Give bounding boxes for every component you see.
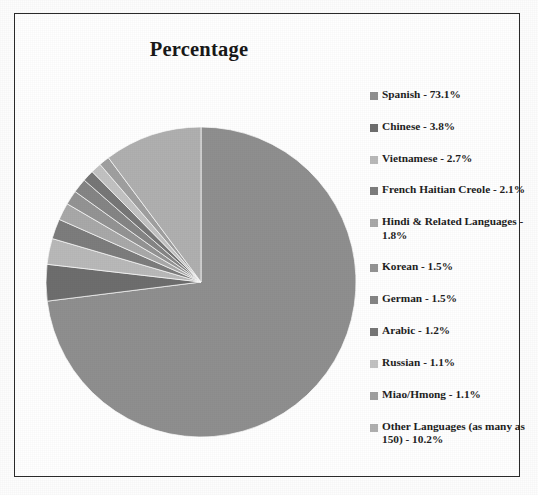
- legend-item: Hindi & Related Languages - 1.8%: [370, 215, 538, 242]
- legend-item: German - 1.5%: [370, 292, 538, 305]
- legend-item: French Haitian Creole - 2.1%: [370, 183, 538, 196]
- legend-item: Spanish - 73.1%: [370, 88, 538, 101]
- pie-chart-svg: [31, 112, 356, 442]
- legend-item-label: Russian - 1.1%: [382, 356, 455, 369]
- legend-item: Korean - 1.5%: [370, 260, 538, 273]
- legend-item: Russian - 1.1%: [370, 356, 538, 369]
- legend-swatch-icon: [370, 360, 378, 368]
- legend-item: Miao/Hmong - 1.1%: [370, 388, 538, 401]
- legend-swatch-icon: [370, 156, 378, 164]
- pie-slice-group: [46, 127, 356, 437]
- legend-item: Chinese - 3.8%: [370, 120, 538, 133]
- legend-item-label: Korean - 1.5%: [382, 260, 453, 273]
- legend-item-label: French Haitian Creole - 2.1%: [382, 183, 525, 196]
- legend-swatch-icon: [370, 124, 378, 132]
- legend-item: Vietnamese - 2.7%: [370, 152, 538, 165]
- legend-item: Other Languages (as many as 150) - 10.2%: [370, 420, 538, 447]
- legend-item-label: German - 1.5%: [382, 292, 457, 305]
- legend-item-label: Miao/Hmong - 1.1%: [382, 388, 481, 401]
- legend-item-label: Hindi & Related Languages - 1.8%: [382, 215, 538, 242]
- legend-item-label: Other Languages (as many as 150) - 10.2%: [382, 420, 538, 447]
- legend-swatch-icon: [370, 392, 378, 400]
- pie-chart-plot-area: [31, 112, 356, 442]
- legend-swatch-icon: [370, 219, 378, 227]
- chart-legend: Spanish - 73.1%Chinese - 3.8%Vietnamese …: [370, 88, 538, 465]
- legend-swatch-icon: [370, 187, 378, 195]
- legend-item: Arabic - 1.2%: [370, 324, 538, 337]
- legend-item-label: Spanish - 73.1%: [382, 88, 461, 101]
- legend-swatch-icon: [370, 424, 378, 432]
- legend-swatch-icon: [370, 92, 378, 100]
- legend-item-label: Chinese - 3.8%: [382, 120, 455, 133]
- chart-page: Percentage Spanish - 73.1%Chinese - 3.8%…: [0, 0, 538, 495]
- legend-swatch-icon: [370, 264, 378, 272]
- legend-item-label: Vietnamese - 2.7%: [382, 152, 472, 165]
- legend-item-label: Arabic - 1.2%: [382, 324, 450, 337]
- legend-swatch-icon: [370, 328, 378, 336]
- legend-swatch-icon: [370, 296, 378, 304]
- page-title: Percentage: [29, 38, 369, 61]
- chart-frame: Percentage Spanish - 73.1%Chinese - 3.8%…: [14, 13, 520, 477]
